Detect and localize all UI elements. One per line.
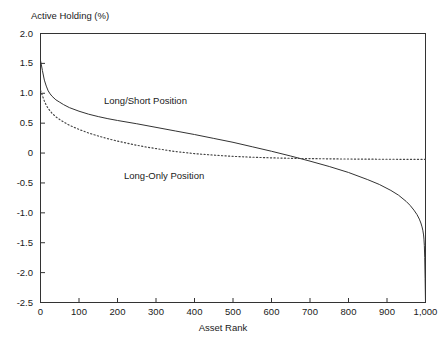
plot-border [41, 34, 426, 303]
y-tick-label: -2.5 [5, 297, 33, 308]
x-tick-label: 800 [329, 306, 369, 317]
x-tick-label: 200 [98, 306, 138, 317]
y-tick-label: 0 [5, 147, 33, 158]
series-label-long-only: Long-Only Position [124, 170, 204, 181]
x-tick-label: 300 [136, 306, 176, 317]
chart-figure: Active Holding (%) Asset Rank 0100200300… [0, 0, 446, 343]
x-tick-label: 600 [252, 306, 292, 317]
y-tick-label: 2.0 [5, 28, 33, 39]
x-tick-label: 0 [21, 306, 61, 317]
y-axis-title: Active Holding (%) [31, 10, 109, 21]
series-long-only-line [41, 90, 426, 159]
y-tick-label: -1.0 [5, 207, 33, 218]
x-tick-label: 100 [59, 306, 99, 317]
y-tick-label: 1.5 [5, 57, 33, 68]
series-label-long-short: Long/Short Position [104, 95, 187, 106]
y-tick-label: 0.5 [5, 117, 33, 128]
y-tick-label: -0.5 [5, 177, 33, 188]
x-tick-label: 700 [290, 306, 330, 317]
x-tick-label: 1,000 [406, 306, 446, 317]
y-tick-label: -2.0 [5, 267, 33, 278]
x-tick-label: 900 [367, 306, 407, 317]
x-tick-label: 500 [213, 306, 253, 317]
plot-area [0, 0, 446, 343]
y-tick-label: 1.0 [5, 87, 33, 98]
y-tick-label: -1.5 [5, 237, 33, 248]
x-axis-ticks [41, 298, 426, 303]
series-long-short-line [41, 60, 426, 302]
x-tick-label: 400 [175, 306, 215, 317]
x-axis-title: Asset Rank [0, 322, 446, 333]
